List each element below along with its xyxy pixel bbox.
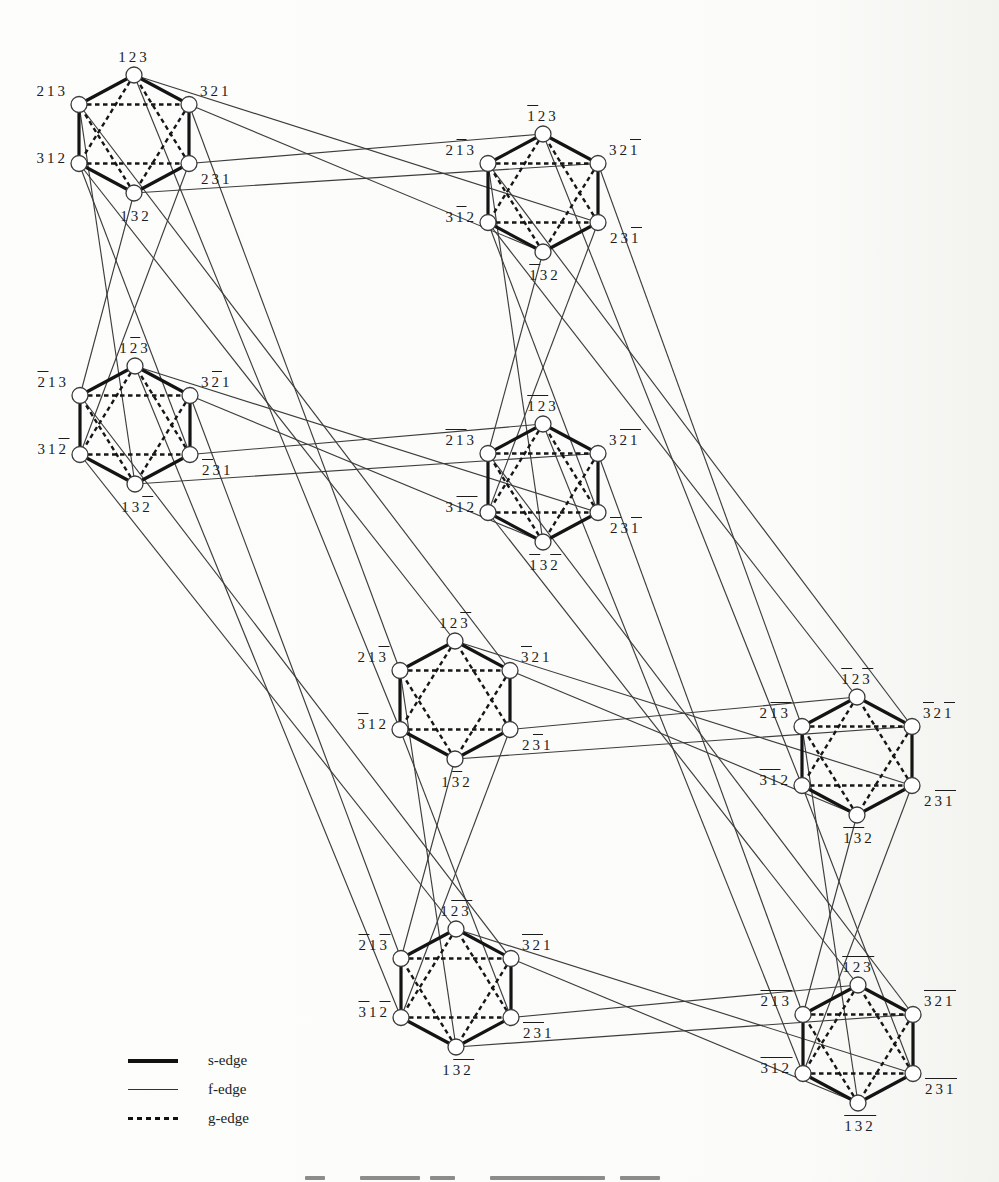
- cropped-caption-mark: [305, 1176, 325, 1180]
- cropped-caption-mark: [430, 1176, 455, 1180]
- cropped-caption-mark: [490, 1176, 605, 1180]
- cropped-caption-mark: [360, 1176, 420, 1180]
- figure-page: 1232133213122311321232133213122311321232…: [0, 0, 999, 1182]
- cropped-caption: [0, 0, 999, 1182]
- cropped-caption-mark: [620, 1176, 660, 1180]
